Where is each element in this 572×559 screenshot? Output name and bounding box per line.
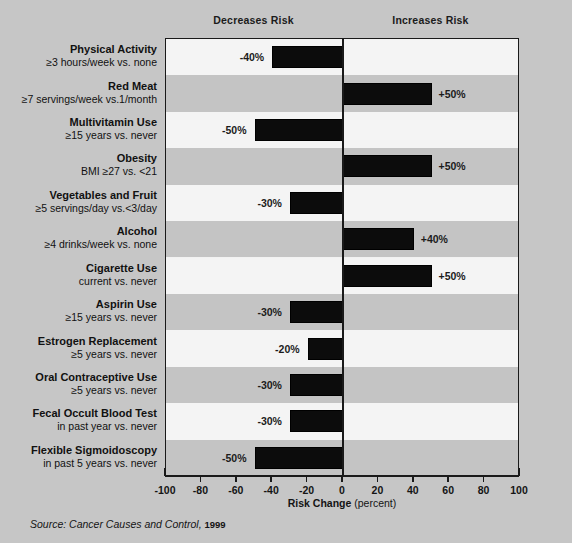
bar (290, 410, 343, 432)
row-label: Fecal Occult Blood Testin past year vs. … (0, 407, 157, 433)
row-label: Estrogen Replacement≥5 years vs. never (0, 335, 157, 361)
row-label-detail: ≥15 years vs. never (0, 129, 157, 142)
axis-tick (270, 475, 272, 482)
axis-tick-label: -20 (287, 484, 327, 496)
bar-value-label: -30% (257, 301, 282, 323)
axis-tick (447, 475, 449, 482)
bar-value-label: +50% (439, 83, 466, 105)
row-label-name: Oral Contraceptive Use (0, 371, 157, 384)
row-label: Alcohol≥4 drinks/week vs. none (0, 225, 157, 251)
row-label-detail: current vs. never (0, 275, 157, 288)
plot-area: -40%+50%-50%+50%-30%+40%+50%-30%-20%-30%… (165, 38, 519, 475)
row-label-name: Physical Activity (0, 43, 157, 56)
row-label-name: Cigarette Use (0, 262, 157, 275)
source-year: 1999 (205, 519, 226, 530)
axis-tick-label: -60 (216, 484, 256, 496)
row-label-detail: ≥5 years vs. never (0, 384, 157, 397)
bar (290, 301, 343, 323)
bar (343, 265, 432, 287)
axis-tick (306, 475, 308, 482)
axis-tick (200, 475, 202, 482)
x-axis-units-text: (percent) (354, 497, 396, 509)
row-label-detail: ≥3 hours/week vs. none (0, 56, 157, 69)
x-axis-title: Risk Change (percent) (165, 497, 519, 509)
row-label: Aspirin Use≥15 years vs. never (0, 298, 157, 324)
bar (290, 374, 343, 396)
row-label: Multivitamin Use≥15 years vs. never (0, 116, 157, 142)
row-label-name: Estrogen Replacement (0, 335, 157, 348)
x-axis-title-text: Risk Change (288, 497, 352, 509)
row-label-name: Vegetables and Fruit (0, 189, 157, 202)
bar-value-label: -50% (222, 447, 247, 469)
axis-tick (483, 475, 485, 482)
x-axis: -100-80-60-40-20020406080100 (165, 475, 519, 477)
bar-value-label: -30% (257, 374, 282, 396)
bar (255, 119, 344, 141)
axis-tick (235, 475, 237, 482)
bar (308, 338, 343, 360)
zero-axis-line (342, 39, 344, 476)
axis-tick-label: 20 (357, 484, 397, 496)
bar-value-label: -50% (222, 119, 247, 141)
source-text: Source: Cancer Causes and Control, (30, 518, 202, 530)
row-label-detail: BMI ≥27 vs. <21 (0, 165, 157, 178)
axis-tick-label: 80 (464, 484, 504, 496)
row-label-name: Red Meat (0, 80, 157, 93)
bar (255, 447, 344, 469)
axis-tick (377, 475, 379, 482)
bar-value-label: +50% (439, 155, 466, 177)
bar-value-label: +40% (421, 228, 448, 250)
row-label-detail: ≥5 years vs. never (0, 348, 157, 361)
axis-tick (412, 475, 414, 482)
row-label-detail: in past 5 years vs. never (0, 457, 157, 470)
axis-tick-label: -40 (251, 484, 291, 496)
row-label: Cigarette Usecurrent vs. never (0, 262, 157, 288)
row-label-name: Multivitamin Use (0, 116, 157, 129)
bar (290, 192, 343, 214)
column-header-decreases-risk: Decreases Risk (165, 14, 342, 26)
bar (343, 83, 432, 105)
row-label-column: Physical Activity≥3 hours/week vs. noneR… (0, 38, 157, 475)
row-label: Oral Contraceptive Use≥5 years vs. never (0, 371, 157, 397)
row-label-detail: ≥5 servings/day vs.<3/day (0, 202, 157, 215)
row-label-detail: ≥7 servings/week vs.1/month (0, 93, 157, 106)
bar (343, 228, 414, 250)
row-label: Vegetables and Fruit≥5 servings/day vs.<… (0, 189, 157, 215)
row-label: Red Meat≥7 servings/week vs.1/month (0, 80, 157, 106)
axis-endcap (164, 468, 166, 476)
axis-tick-label: 60 (428, 484, 468, 496)
bar (343, 155, 432, 177)
row-label-name: Flexible Sigmoidoscopy (0, 444, 157, 457)
bar-value-label: -30% (257, 192, 282, 214)
axis-tick-label: -100 (145, 484, 185, 496)
bar-value-label: -20% (275, 338, 300, 360)
bar-value-label: -40% (240, 46, 265, 68)
bar-value-label: +50% (439, 265, 466, 287)
axis-tick-label: 0 (322, 484, 362, 496)
risk-change-chart-figure: Decreases Risk Increases Risk Physical A… (0, 0, 572, 559)
row-label-detail: ≥15 years vs. never (0, 311, 157, 324)
bar-value-label: -30% (257, 410, 282, 432)
axis-tick-label: 100 (499, 484, 539, 496)
figure-bottom-margin (0, 543, 572, 559)
row-label: Flexible Sigmoidoscopyin past 5 years vs… (0, 444, 157, 470)
row-label-name: Alcohol (0, 225, 157, 238)
axis-tick-label: 40 (393, 484, 433, 496)
axis-endcap (518, 468, 520, 476)
column-header-increases-risk: Increases Risk (342, 14, 519, 26)
row-label: Physical Activity≥3 hours/week vs. none (0, 43, 157, 69)
bar (272, 46, 343, 68)
axis-tick-label: -80 (180, 484, 220, 496)
row-label-detail: in past year vs. never (0, 420, 157, 433)
row-label: ObesityBMI ≥27 vs. <21 (0, 152, 157, 178)
row-label-name: Obesity (0, 152, 157, 165)
axis-tick (341, 475, 343, 482)
row-label-name: Aspirin Use (0, 298, 157, 311)
row-label-detail: ≥4 drinks/week vs. none (0, 238, 157, 251)
row-label-name: Fecal Occult Blood Test (0, 407, 157, 420)
source-citation: Source: Cancer Causes and Control, 1999 (30, 518, 226, 530)
